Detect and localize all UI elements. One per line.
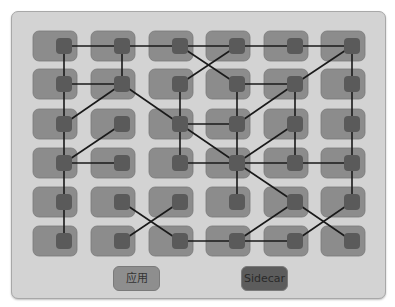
sidecar-node — [114, 233, 130, 249]
sidecar-node — [287, 38, 303, 54]
sidecar-node — [287, 194, 303, 210]
sidecar-node — [56, 233, 72, 249]
sidecar-node — [344, 38, 360, 54]
sidecar-node — [229, 38, 245, 54]
sidecar-node — [56, 38, 72, 54]
sidecar-node — [114, 155, 130, 171]
app-boxes — [33, 31, 365, 256]
sidecar-node — [172, 38, 188, 54]
sidecar-node — [56, 116, 72, 132]
sidecar-node — [56, 194, 72, 210]
sidecar-node — [229, 155, 245, 171]
sidecar-node — [287, 116, 303, 132]
sidecar-node — [56, 155, 72, 171]
sidecar-node — [287, 76, 303, 92]
sidecar-node — [172, 116, 188, 132]
sidecar-node — [172, 76, 188, 92]
sidecar-node — [114, 76, 130, 92]
sidecar-node — [172, 233, 188, 249]
sidecar-node — [344, 155, 360, 171]
sidecar-node — [56, 76, 72, 92]
sidecar-node — [172, 194, 188, 210]
sidecar-node — [287, 233, 303, 249]
sidecar-node — [344, 76, 360, 92]
sidecar-node — [287, 155, 303, 171]
sidecar-node — [344, 116, 360, 132]
mesh-graph — [0, 0, 395, 307]
sidecar-node — [344, 233, 360, 249]
sidecar-node — [229, 116, 245, 132]
sidecar-node — [229, 233, 245, 249]
sidecar-node — [172, 155, 188, 171]
sidecar-node — [114, 116, 130, 132]
sidecar-node — [114, 38, 130, 54]
legend-sidecar: Sidecar — [241, 266, 288, 291]
sidecar-node — [344, 194, 360, 210]
sidecar-node — [229, 76, 245, 92]
legend-app: 应用 — [113, 266, 160, 291]
sidecar-node — [229, 194, 245, 210]
sidecar-node — [114, 194, 130, 210]
